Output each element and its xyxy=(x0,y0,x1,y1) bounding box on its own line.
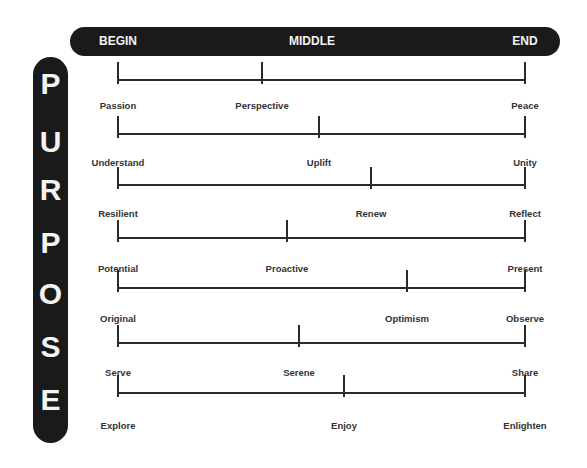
tick-middle xyxy=(261,62,263,84)
timeline-line xyxy=(118,237,525,239)
label-begin: Resilient xyxy=(98,208,138,219)
tick-end xyxy=(524,116,526,138)
header-begin-label: BEGIN xyxy=(99,27,137,56)
tick-end xyxy=(524,167,526,189)
tick-begin xyxy=(117,325,119,347)
tick-end xyxy=(524,375,526,397)
header-middle-label: MIDDLE xyxy=(289,27,335,56)
tick-begin xyxy=(117,220,119,242)
label-middle: Perspective xyxy=(235,100,288,111)
label-middle: Serene xyxy=(283,367,315,378)
label-begin: Explore xyxy=(101,420,136,431)
tick-begin xyxy=(117,116,119,138)
timeline-line xyxy=(118,287,525,289)
label-begin: Original xyxy=(100,313,136,324)
label-middle: Optimism xyxy=(385,313,429,324)
label-middle: Renew xyxy=(356,208,387,219)
purpose-letter: E xyxy=(33,385,68,415)
purpose-letter: R xyxy=(33,175,68,205)
tick-begin xyxy=(117,270,119,292)
label-end: Peace xyxy=(511,100,538,111)
purpose-letter: P xyxy=(33,228,68,258)
purpose-letter: U xyxy=(33,127,68,157)
label-middle: Uplift xyxy=(307,157,331,168)
tick-middle xyxy=(343,375,345,397)
label-end: Unity xyxy=(513,157,537,168)
label-middle: Proactive xyxy=(266,263,309,274)
timeline-line xyxy=(118,392,525,394)
tick-middle xyxy=(370,167,372,189)
label-begin: Understand xyxy=(92,157,145,168)
label-end: Reflect xyxy=(509,208,541,219)
label-begin: Passion xyxy=(100,100,136,111)
purpose-vertical-title: PURPOSE xyxy=(33,57,68,443)
timeline-line xyxy=(118,133,525,135)
label-end: Observe xyxy=(506,313,544,324)
purpose-letter: S xyxy=(33,332,68,362)
tick-begin xyxy=(117,375,119,397)
tick-end xyxy=(524,62,526,84)
label-middle: Enjoy xyxy=(331,420,357,431)
timeline-line xyxy=(118,342,525,344)
purpose-letter: O xyxy=(33,279,68,309)
tick-middle xyxy=(318,116,320,138)
tick-begin xyxy=(117,167,119,189)
purpose-letter: P xyxy=(33,69,68,99)
tick-middle xyxy=(406,270,408,292)
tick-middle xyxy=(286,220,288,242)
tick-middle xyxy=(298,325,300,347)
timeline-line xyxy=(118,184,525,186)
tick-end xyxy=(524,270,526,292)
label-end: Enlighten xyxy=(503,420,546,431)
tick-end xyxy=(524,220,526,242)
timeline-line xyxy=(118,79,525,81)
header-end-label: END xyxy=(512,27,537,56)
tick-end xyxy=(524,325,526,347)
tick-begin xyxy=(117,62,119,84)
